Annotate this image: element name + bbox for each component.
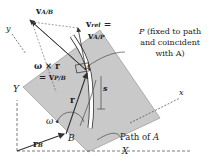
rB-label: rB <box>33 140 43 149</box>
X-fixed-label: X <box>122 147 128 156</box>
omega-label: ω <box>46 117 53 126</box>
path-of-a-label: Path of A <box>120 133 159 142</box>
v-ab-label: vA/B <box>36 7 53 16</box>
v-ap-label: vA/P <box>88 32 105 41</box>
B-label: B <box>68 134 75 143</box>
rotating-frame-diagram: vA/B vrel = vA/P ω × r = vP/B P (fixed t… <box>0 0 211 162</box>
y-rotating-label: y <box>6 25 11 33</box>
A-label: A <box>85 64 91 72</box>
v-pb-label: = vP/B <box>39 73 66 82</box>
v-rel-label: vrel = <box>86 20 111 29</box>
omega-cross-r-label: ω × r <box>34 62 60 71</box>
Y-fixed-label: Y <box>13 85 19 94</box>
x-rotating-label: x <box>179 89 184 97</box>
s-label: s <box>103 84 108 92</box>
P-note: P (fixed to path and coincident with A) <box>139 26 201 59</box>
r-label: r <box>70 96 75 105</box>
y-axis-rotating <box>12 34 26 54</box>
